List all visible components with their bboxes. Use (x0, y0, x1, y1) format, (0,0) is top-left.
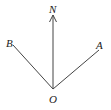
direction-diagram: N B A O (0, 0, 111, 110)
label-o: O (49, 93, 57, 105)
label-n: N (48, 3, 57, 15)
ray-oa (53, 50, 99, 89)
ray-ob (13, 45, 53, 89)
label-b: B (6, 37, 13, 49)
label-a: A (95, 39, 103, 51)
